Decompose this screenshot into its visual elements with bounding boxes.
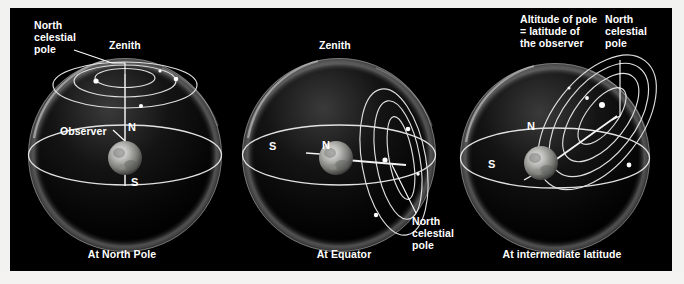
star-marker (568, 87, 571, 90)
label-observer: Observer (60, 125, 107, 137)
label-zenith: Zenith (319, 39, 351, 51)
label-north-celestial-pole: North celestial pole (412, 215, 454, 252)
earth-globe (108, 141, 142, 175)
caption-intermediate-latitude: At intermediate latitude (452, 248, 672, 260)
star-marker (416, 172, 419, 175)
star-marker (374, 213, 378, 217)
earth-texture (335, 160, 349, 170)
figure-root: North celestial pole Zenith Observer N S… (0, 0, 684, 284)
star-marker (382, 157, 387, 162)
star-marker (174, 77, 179, 82)
label-north-axis: N (322, 139, 330, 151)
earth-texture (124, 160, 138, 170)
panel-intermediate-latitude: Altitude of pole = latitude of the obser… (452, 8, 672, 271)
label-south-axis: S (269, 140, 276, 152)
earth-texture (118, 164, 126, 170)
label-south-axis: S (488, 158, 495, 170)
earth-globe (524, 146, 558, 180)
star-marker (406, 127, 411, 132)
earth-texture (540, 165, 554, 175)
south-axis-line (306, 153, 320, 154)
star-marker (585, 96, 589, 100)
star-marker (599, 102, 605, 108)
caption-equator: At Equator (234, 248, 454, 260)
page-bottom-strip (0, 271, 684, 284)
caption-north-pole: At North Pole (12, 248, 232, 260)
panel-equator: Zenith North celestial pole N S At Equat… (234, 8, 454, 271)
label-altitude-of-pole: Altitude of pole = latitude of the obser… (520, 13, 597, 50)
earth-texture (113, 148, 125, 158)
star-marker (627, 163, 632, 168)
star-marker (93, 78, 98, 83)
earth-texture (534, 169, 542, 175)
earth-texture (329, 164, 337, 170)
label-north-celestial-pole: North celestial pole (605, 13, 647, 50)
diagram-canvas: North celestial pole Zenith Observer N S… (10, 8, 672, 271)
star-marker (139, 104, 143, 108)
label-north-axis: N (527, 120, 535, 132)
label-north-celestial-pole: North celestial pole (34, 19, 76, 56)
star-marker (158, 69, 161, 72)
earth-texture (529, 153, 541, 163)
label-north-axis: N (128, 121, 136, 133)
panel-north-pole: North celestial pole Zenith Observer N S… (12, 8, 232, 271)
label-south-axis: S (131, 176, 138, 188)
label-zenith: Zenith (109, 39, 141, 51)
